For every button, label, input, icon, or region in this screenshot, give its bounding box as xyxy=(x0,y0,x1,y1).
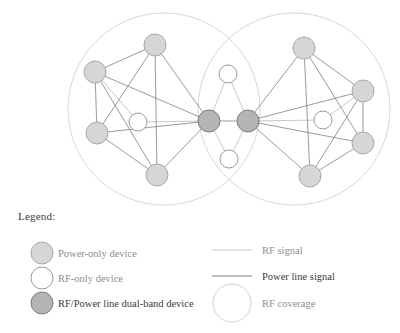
legend-label-dual-band-device: RF/Power line dual-band device xyxy=(58,298,194,309)
legend-title: Legend: xyxy=(18,210,55,222)
legend-label-rf-coverage: RF coverage xyxy=(262,298,315,309)
legend-label-power-only-device: Power-only device xyxy=(58,248,137,259)
legend-label-rf-signal: RF signal xyxy=(262,245,303,256)
network-edge-power xyxy=(97,121,209,133)
network-edge-power xyxy=(310,91,363,176)
network-edge-power xyxy=(95,72,157,175)
network-edge-power xyxy=(155,45,157,175)
node-power-only-R2[interactable] xyxy=(352,80,374,102)
power-only-swatch xyxy=(31,242,53,264)
node-power-only-L4[interactable] xyxy=(146,164,168,186)
rf-only-swatch xyxy=(31,267,53,289)
node-power-only-R1[interactable] xyxy=(293,37,315,59)
rf-coverage-circle-swatch xyxy=(213,284,251,322)
node-power-only-R3[interactable] xyxy=(352,132,374,154)
network-edge-power xyxy=(248,91,363,121)
node-rf-only-CT[interactable] xyxy=(219,65,237,83)
node-dual-band-C2[interactable] xyxy=(237,110,259,132)
legend-label-rf-only-device: RF-only device xyxy=(58,273,123,284)
network-edge-power xyxy=(248,121,310,176)
node-dual-band-C1[interactable] xyxy=(198,110,220,132)
node-power-only-L2[interactable] xyxy=(144,34,166,56)
node-power-only-L3[interactable] xyxy=(86,122,108,144)
legend-label-power-line-signal: Power line signal xyxy=(262,271,335,282)
node-power-only-L1[interactable] xyxy=(84,61,106,83)
node-power-only-R4[interactable] xyxy=(299,165,321,187)
network-diagram-figure: Legend: Power-only device RF-only device… xyxy=(0,0,400,333)
node-rf-only-CB[interactable] xyxy=(220,150,238,168)
network-edge-power xyxy=(304,48,310,176)
node-rf-only-L5[interactable] xyxy=(129,113,147,131)
node-rf-only-R5[interactable] xyxy=(314,111,332,129)
dual-band-swatch xyxy=(31,292,53,314)
network-edge-power xyxy=(248,121,363,143)
